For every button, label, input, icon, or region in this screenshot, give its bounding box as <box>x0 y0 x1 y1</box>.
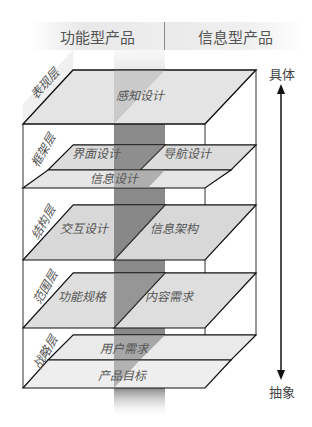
item-product-objectives: 产品目标 <box>98 369 148 383</box>
axis-label-abstract: 抽象 <box>269 385 295 400</box>
item-content-requirements: 内容需求 <box>145 290 195 304</box>
axis-label-concrete: 具体 <box>269 67 295 82</box>
item-user-needs: 用户需求 <box>100 342 150 356</box>
concrete-abstract-axis <box>277 84 285 380</box>
five-planes-diagram: 表现层 框架层 结构层 范围层 战略层 感知设计 界面设计 导航设计 信息设计 … <box>0 0 312 427</box>
item-functional-specs: 功能规格 <box>58 290 107 304</box>
plane-structure <box>23 205 256 260</box>
band-bottom <box>114 388 165 418</box>
arrow-up-icon <box>277 84 285 94</box>
arrow-down-icon <box>277 370 285 380</box>
item-interaction-design: 交互设计 <box>60 222 110 236</box>
item-sensory-design: 感知设计 <box>116 89 166 103</box>
item-information-design: 信息设计 <box>90 172 140 186</box>
plane-strategy-upper <box>48 335 256 360</box>
item-navigation-design: 导航设计 <box>163 147 213 161</box>
item-interface-design: 界面设计 <box>72 147 122 161</box>
item-information-architecture: 信息架构 <box>150 222 200 236</box>
